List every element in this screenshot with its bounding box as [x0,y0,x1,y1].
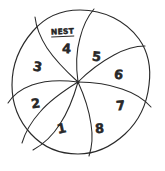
nest-text-label: NEST [51,27,75,37]
spiral-diagram-canvas: NEST 4 3 2 1 8 7 6 5 [0,0,165,171]
segment-number-4: 4 [62,42,72,56]
segment-number-7: 7 [115,99,125,113]
spiral-arm-6 [78,46,145,82]
spiral-arm-3 [8,81,78,103]
spiral-arm-5 [77,9,94,82]
segment-number-5: 5 [91,50,101,64]
segment-number-6: 6 [113,67,124,81]
spiral-arm-8 [78,82,92,156]
spiral-arm-1 [33,82,78,150]
spiral-arm-7 [78,82,151,107]
segment-number-2: 2 [30,96,41,110]
segment-number-8: 8 [95,122,105,136]
center-point [76,80,79,83]
spiral-pinwheel-drawing [0,0,165,171]
